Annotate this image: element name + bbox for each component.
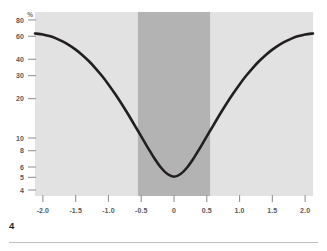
x-tick-label: 1.5 bbox=[267, 207, 277, 214]
x-tick-label: 0.5 bbox=[202, 207, 212, 214]
figure-container: 8060403020108654 -2.0-1.5-1.0-0.500.51.0… bbox=[0, 0, 327, 251]
chart-plot: 8060403020108654 -2.0-1.5-1.0-0.500.51.0… bbox=[0, 0, 327, 218]
x-tick-label: 1.0 bbox=[235, 207, 245, 214]
y-tick-label: 8 bbox=[20, 147, 24, 154]
x-tick-label: -1.5 bbox=[69, 207, 81, 214]
y-tick-label: 20 bbox=[16, 95, 24, 102]
caption-divider bbox=[9, 242, 318, 243]
x-tick-label: -1.0 bbox=[102, 207, 114, 214]
x-tick-label: -0.5 bbox=[135, 207, 147, 214]
x-axis-ticks bbox=[43, 195, 305, 202]
y-tick-label: 40 bbox=[16, 56, 24, 63]
chart-svg: 8060403020108654 -2.0-1.5-1.0-0.500.51.0… bbox=[0, 0, 327, 218]
y-tick-label: 6 bbox=[20, 164, 24, 171]
y-tick-label: 30 bbox=[16, 72, 24, 79]
y-tick-label: 10 bbox=[16, 135, 24, 142]
x-tick-label: 2.0 bbox=[300, 207, 310, 214]
figure-caption-area: 4 bbox=[0, 218, 327, 251]
figure-number: 4 bbox=[9, 220, 14, 232]
x-axis-tick-labels: -2.0-1.5-1.0-0.500.51.01.52.0 bbox=[37, 207, 311, 214]
highlight-bands bbox=[138, 12, 210, 196]
y-tick-label: 5 bbox=[20, 174, 24, 181]
y-tick-label: 80 bbox=[16, 17, 24, 24]
highlight-band bbox=[138, 12, 210, 196]
y-tick-label: 60 bbox=[16, 33, 24, 40]
y-axis-tick-labels: 8060403020108654 bbox=[16, 17, 24, 194]
x-tick-label: 0 bbox=[172, 207, 176, 214]
x-tick-label: -2.0 bbox=[37, 207, 49, 214]
y-axis-ticks bbox=[28, 20, 36, 190]
y-axis-unit-label: % bbox=[27, 11, 33, 18]
y-tick-label: 4 bbox=[20, 187, 24, 194]
